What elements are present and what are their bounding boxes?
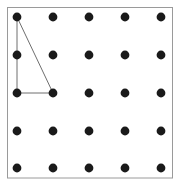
lattice-dot-r1-c4 <box>157 51 166 60</box>
lattice-dot-r4-c1 <box>49 164 58 173</box>
lattice-dot-r4-c2 <box>85 164 94 173</box>
lattice-dot-r0-c4 <box>157 13 166 22</box>
figure-container <box>0 0 180 187</box>
lattice-dot-r1-c2 <box>85 51 94 60</box>
lattice-dot-r0-c3 <box>121 13 130 22</box>
lattice-dot-r2-c4 <box>157 89 166 98</box>
lattice-dot-r4-c4 <box>157 164 166 173</box>
lattice-dot-r3-c2 <box>85 127 94 136</box>
lattice-dot-r4-c3 <box>121 164 130 173</box>
lattice-dot-r1-c3 <box>121 51 130 60</box>
lattice-dot-r2-c1 <box>49 89 58 98</box>
lattice-dot-r3-c4 <box>157 127 166 136</box>
lattice-dot-r0-c2 <box>85 13 94 22</box>
lattice-dot-r4-c0 <box>13 164 22 173</box>
lattice-dot-r1-c1 <box>49 51 58 60</box>
lattice-diagram <box>0 0 180 187</box>
lattice-dot-r3-c1 <box>49 127 58 136</box>
lattice-dot-r2-c3 <box>121 89 130 98</box>
lattice-dot-r1-c0 <box>13 51 22 60</box>
lattice-dot-r0-c0 <box>13 13 22 22</box>
lattice-dot-r0-c1 <box>49 13 58 22</box>
lattice-dot-r2-c0 <box>13 89 22 98</box>
lattice-dot-r3-c0 <box>13 127 22 136</box>
lattice-dot-r2-c2 <box>85 89 94 98</box>
lattice-dot-r3-c3 <box>121 127 130 136</box>
